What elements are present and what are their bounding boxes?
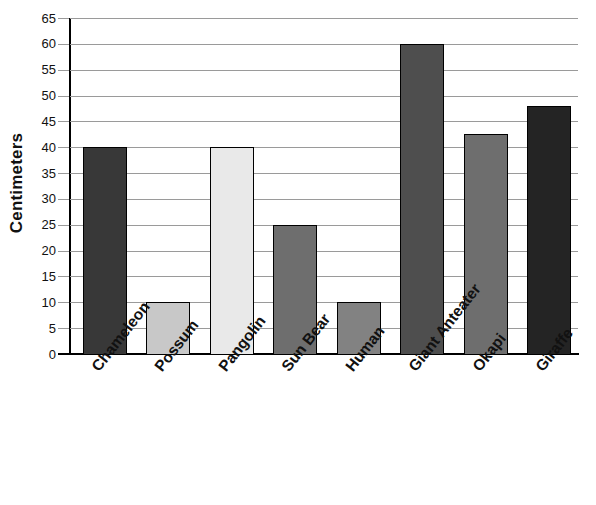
y-axis-tick-label-wrap: 50 <box>0 89 56 103</box>
y-axis-tick-label-wrap: 65 <box>0 11 56 25</box>
y-axis-tick-labels: 05101520253035404550556065 <box>0 0 70 505</box>
y-axis-tick-label: 25 <box>2 218 56 231</box>
y-axis-tick-mark <box>58 302 69 303</box>
y-axis-tick-label-wrap: 45 <box>0 114 56 128</box>
gridline <box>70 96 578 97</box>
y-axis-tick-label: 50 <box>2 89 56 102</box>
y-axis-tick-mark <box>58 121 69 122</box>
gridline <box>70 70 578 71</box>
y-axis-tick-mark <box>58 18 69 19</box>
y-axis-tick-label-wrap: 25 <box>0 218 56 232</box>
y-axis-tick-mark <box>58 328 69 329</box>
y-axis-tick-label: 40 <box>2 141 56 154</box>
y-axis-tick-label: 55 <box>2 63 56 76</box>
y-axis-tick-label: 45 <box>2 115 56 128</box>
y-axis-tick-label: 15 <box>2 270 56 283</box>
y-axis-tick-label: 60 <box>2 37 56 50</box>
bar[interactable] <box>527 106 571 354</box>
y-axis-tick-mark <box>58 147 69 148</box>
y-axis-tick-label: 20 <box>2 244 56 257</box>
y-axis-tick-mark <box>58 70 69 71</box>
y-axis-tick-label-wrap: 60 <box>0 37 56 51</box>
y-axis-tick-mark <box>58 251 69 252</box>
bar-chart-figure: Centimeters 05101520253035404550556065 C… <box>0 0 596 505</box>
y-axis-tick-mark <box>58 276 69 277</box>
y-axis-tick-label-wrap: 20 <box>0 244 56 258</box>
bar[interactable] <box>464 134 508 354</box>
y-axis-tick-label-wrap: 55 <box>0 63 56 77</box>
y-axis-tick-label-wrap: 35 <box>0 166 56 180</box>
y-axis-tick-label-wrap: 40 <box>0 140 56 154</box>
y-axis-tick-label: 10 <box>2 296 56 309</box>
y-axis-tick-label-wrap: 30 <box>0 192 56 206</box>
gridline <box>70 121 578 122</box>
y-axis-tick-label: 30 <box>2 192 56 205</box>
y-axis-tick-mark <box>58 44 69 45</box>
y-axis-tick-label-wrap: 15 <box>0 269 56 283</box>
y-axis-tick-label: 65 <box>2 12 56 25</box>
y-axis-tick-label-wrap: 0 <box>0 347 56 361</box>
gridline <box>70 18 578 19</box>
y-axis-tick-mark <box>58 173 69 174</box>
y-axis-tick-mark <box>58 225 69 226</box>
y-axis-tick-label-wrap: 10 <box>0 295 56 309</box>
gridline <box>70 44 578 45</box>
y-axis-tick-label: 0 <box>2 348 56 361</box>
y-axis-tick-label: 35 <box>2 167 56 180</box>
y-axis-tick-label: 5 <box>2 322 56 335</box>
y-axis-tick-mark <box>58 96 69 97</box>
bar[interactable] <box>400 44 444 354</box>
y-axis-tick-mark <box>58 199 69 200</box>
y-axis-tick-label-wrap: 5 <box>0 321 56 335</box>
